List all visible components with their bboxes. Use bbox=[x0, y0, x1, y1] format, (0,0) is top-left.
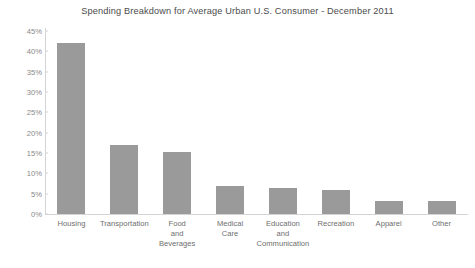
bar bbox=[163, 152, 191, 214]
bar bbox=[375, 201, 403, 214]
bar bbox=[322, 190, 350, 214]
x-axis-category-label-line: Communication bbox=[252, 239, 314, 249]
y-axis-tick-mark bbox=[45, 173, 48, 174]
y-axis: 45%40%35%30%25%20%15%10%5%0% bbox=[0, 0, 42, 268]
y-axis-tick-label: 0% bbox=[4, 210, 42, 219]
y-axis-tick-mark bbox=[45, 71, 48, 72]
x-axis-category-label: Other bbox=[411, 219, 473, 229]
bar bbox=[110, 145, 138, 214]
y-axis-tick-mark bbox=[45, 193, 48, 194]
y-axis-tick-label: 20% bbox=[4, 128, 42, 137]
bar bbox=[269, 188, 297, 214]
y-axis-tick-label: 10% bbox=[4, 169, 42, 178]
bar bbox=[428, 201, 456, 214]
y-axis-tick-label: 40% bbox=[4, 47, 42, 56]
y-axis-tick-label: 30% bbox=[4, 88, 42, 97]
x-axis-line bbox=[45, 214, 468, 215]
y-axis-tick-label: 5% bbox=[4, 189, 42, 198]
y-axis-tick-label: 45% bbox=[4, 27, 42, 36]
y-axis-tick-mark bbox=[45, 31, 48, 32]
y-axis-tick-mark bbox=[45, 153, 48, 154]
y-axis-tick-label: 15% bbox=[4, 149, 42, 158]
chart-title: Spending Breakdown for Average Urban U.S… bbox=[0, 6, 475, 16]
bar bbox=[57, 43, 85, 214]
bar-chart: Spending Breakdown for Average Urban U.S… bbox=[0, 0, 475, 268]
plot-area bbox=[45, 31, 468, 214]
x-axis-category-label-line: and bbox=[252, 229, 314, 239]
y-axis-tick-label: 25% bbox=[4, 108, 42, 117]
x-axis-category-label-line: Beverages bbox=[146, 239, 208, 249]
y-axis-tick-mark bbox=[45, 214, 48, 215]
y-axis-tick-mark bbox=[45, 92, 48, 93]
y-axis-tick-label: 35% bbox=[4, 67, 42, 76]
y-axis-tick-mark bbox=[45, 51, 48, 52]
bar bbox=[216, 186, 244, 214]
x-axis-category-label-line: Other bbox=[411, 219, 473, 229]
y-axis-tick-mark bbox=[45, 112, 48, 113]
y-axis-tick-mark bbox=[45, 132, 48, 133]
